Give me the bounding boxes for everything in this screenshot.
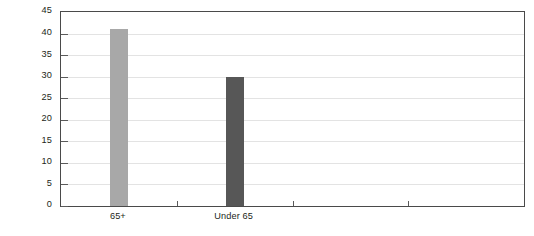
y-axis-tick-mark [61, 120, 68, 121]
gridline [61, 184, 524, 185]
y-axis-tick-mark [61, 34, 68, 35]
bar-chart: Percentage Saying They Are Very Happy 05… [0, 0, 534, 236]
x-axis-tick-mark [293, 201, 294, 206]
x-axis-tick-label: 65+ [110, 211, 126, 222]
y-axis-tick-mark [61, 55, 68, 56]
gridline [61, 163, 524, 164]
bar-65 [110, 29, 128, 206]
y-axis-tick-label: 10 [28, 157, 52, 166]
y-axis-tick-label: 40 [28, 28, 52, 37]
y-axis-tick-label: 35 [28, 50, 52, 59]
y-axis-tick-mark [61, 206, 68, 207]
y-axis-tick-labels: 051015202530354045 [28, 0, 52, 236]
gridline [61, 141, 524, 142]
y-axis-tick-label: 25 [28, 93, 52, 102]
y-axis-tick-label: 45 [28, 6, 52, 15]
y-axis-tick-mark [61, 77, 68, 78]
gridline [61, 120, 524, 121]
y-axis-tick-mark [61, 141, 68, 142]
y-axis-tick-label: 5 [28, 179, 52, 188]
gridline [61, 55, 524, 56]
y-axis-tick-label: 30 [28, 71, 52, 80]
y-axis-tick-label: 20 [28, 114, 52, 123]
gridline [61, 34, 524, 35]
y-axis-tick-mark [61, 98, 68, 99]
y-axis-tick-mark [61, 163, 68, 164]
x-axis-tick-label: Under 65 [214, 211, 253, 222]
plot-area [60, 11, 525, 207]
gridline [61, 77, 524, 78]
y-axis-tick-label: 0 [28, 200, 52, 209]
y-axis-tick-mark [61, 184, 68, 185]
bar-under-65 [226, 77, 244, 206]
x-axis-tick-mark [177, 201, 178, 206]
x-axis-tick-mark [408, 201, 409, 206]
gridline [61, 98, 524, 99]
y-axis-tick-label: 15 [28, 136, 52, 145]
x-axis-tick-labels: 65+Under 65 [60, 211, 525, 231]
